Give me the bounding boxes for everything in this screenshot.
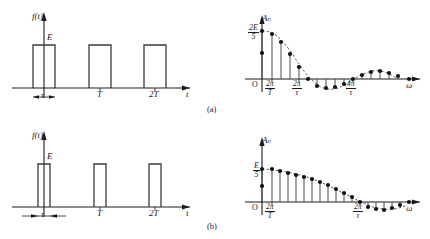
period-label-T-b: T xyxy=(97,209,102,218)
spectrum-stems xyxy=(262,169,400,210)
pulse-rect xyxy=(149,164,161,207)
panel-tag-b: (b) xyxy=(207,221,217,231)
spectrum-data-points xyxy=(260,167,411,212)
pulse-rect xyxy=(94,164,106,207)
y-axis-label-b: f(t) xyxy=(32,131,43,140)
chart-spectrum-b xyxy=(215,119,430,239)
tick-label-2pi-over-T-a: 2π T xyxy=(265,80,275,96)
peak-amplitude-label-a: 2E 5 xyxy=(248,24,259,41)
tau-arrow-left xyxy=(33,95,39,99)
pulse-width-label-b: τ xyxy=(41,211,44,219)
tick-label-2pi-over-tau-a: 2π τ xyxy=(292,80,302,96)
spectrum-envelope-curve xyxy=(262,31,397,89)
panel-tag-a: (a) xyxy=(207,104,216,114)
tick-label-2pi-over-T-b: 2π T xyxy=(265,203,275,219)
peak-label-denominator-b: 5 xyxy=(253,171,260,179)
period-label-2T-b: 2T xyxy=(149,209,159,218)
peak-label-denominator-a: 5 xyxy=(248,33,259,41)
y-axis-label-spectrum-b: Aₙ xyxy=(262,136,272,145)
x-axis-arrowhead xyxy=(412,76,420,81)
chart-spectrum-a xyxy=(215,0,430,119)
x-axis-label-spectrum-b: ω xyxy=(406,204,412,213)
period-label-2T-a: 2T xyxy=(149,90,159,99)
pulse-width-label-a: τ xyxy=(41,92,44,100)
figure-pulse-train-spectra: f(t) E τ T 2T t xyxy=(0,0,430,239)
y-axis-label-a: f(t) xyxy=(32,12,43,21)
pulse-rect xyxy=(89,45,111,88)
x-axis-label-a: t xyxy=(186,90,189,99)
pulse-rect xyxy=(144,45,166,88)
tick-label-4pi-over-tau-a: 4π τ xyxy=(346,80,356,96)
x-axis-arrowhead xyxy=(412,199,420,204)
tick-label-2pi-over-tau-b: 2π τ xyxy=(353,203,363,219)
tau-arrow-right xyxy=(49,95,55,99)
tau-arrow-right xyxy=(50,214,57,218)
tau-arrow-left xyxy=(31,214,38,218)
x-axis-label-b: t xyxy=(186,209,189,218)
peak-amplitude-label-b: E 5 xyxy=(253,162,260,179)
amplitude-label-b: E xyxy=(47,152,53,161)
amplitude-label-a: E xyxy=(47,33,53,42)
origin-label-b: O xyxy=(252,204,258,212)
x-axis-label-spectrum-a: ω xyxy=(406,81,412,90)
origin-label-a: O xyxy=(252,81,258,89)
y-axis-label-spectrum-a: Aₙ xyxy=(262,14,272,23)
period-label-T-a: T xyxy=(97,90,102,99)
